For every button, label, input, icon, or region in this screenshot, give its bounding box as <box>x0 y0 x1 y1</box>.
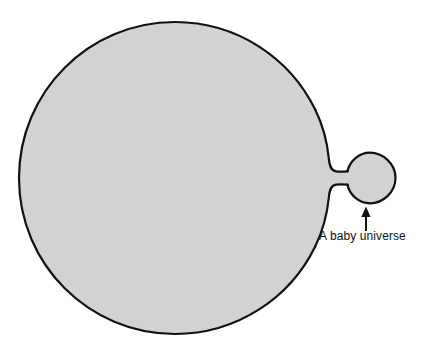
universe-body-group <box>19 22 396 334</box>
annotation-arrow-group <box>361 207 370 232</box>
figure-canvas: A baby universe <box>0 0 423 351</box>
parent-universe-circle <box>19 22 331 334</box>
annotation-arrow-head <box>361 207 370 218</box>
baby-universe-label: A baby universe <box>319 229 406 243</box>
universe-diagram <box>0 0 423 351</box>
wormhole-neck-fill <box>316 150 349 206</box>
